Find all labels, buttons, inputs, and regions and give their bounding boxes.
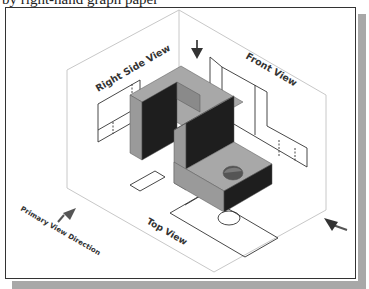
primary-view-arrow-icon xyxy=(58,208,76,222)
top-view-arrow-icon xyxy=(191,40,203,59)
glass-box-diagram: Right Side View Front View Top View Prim… xyxy=(0,0,369,289)
isometric-solid xyxy=(130,66,272,212)
side-view-arrow-icon xyxy=(324,218,347,231)
primary-view-direction-label: Primary View Direction xyxy=(19,205,102,257)
front-view-label: Front View xyxy=(244,50,299,88)
